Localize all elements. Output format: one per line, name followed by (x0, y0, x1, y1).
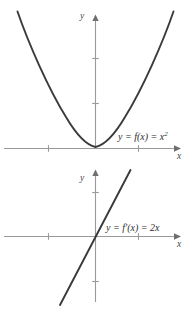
bottom-y-axis-label: y (79, 173, 85, 183)
two-panel-function-derivative-figure: y x y = f(x) = x2 y x y = f′(x) = 2x (0, 0, 194, 314)
figure-background (0, 0, 194, 314)
top-equation-exponent: 2 (164, 130, 168, 138)
top-x-axis-label: x (176, 151, 182, 161)
bottom-x-axis-label: x (176, 239, 182, 249)
top-equation-label: y = f(x) = x2 (117, 130, 168, 143)
top-y-axis-label: y (79, 11, 85, 21)
bottom-equation-label: y = f′(x) = 2x (105, 222, 160, 234)
